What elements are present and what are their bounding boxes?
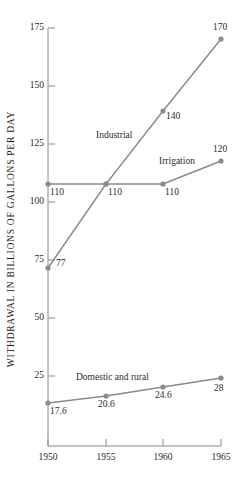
value-label-industrial-1965: 170 [213, 23, 227, 33]
y-tick-label-175: 175 [18, 23, 44, 33]
x-tick-label-1960: 1960 [143, 453, 183, 463]
data-point-domestic-1950 [45, 400, 50, 405]
value-label-irrigation-1950: 110 [50, 188, 64, 198]
y-tick-label-50: 50 [18, 313, 44, 323]
data-point-domestic-1955 [103, 393, 108, 398]
data-point-irrigation-1960 [160, 181, 165, 186]
x-tick-label-1950: 1950 [28, 453, 68, 463]
data-point-irrigation-1955 [103, 181, 108, 186]
series-line-irrigation [48, 161, 221, 184]
y-tick-label-75: 75 [18, 255, 44, 265]
data-point-irrigation-1950 [45, 181, 50, 186]
data-point-industrial-1960 [160, 108, 165, 113]
y-tick-label-100: 100 [18, 197, 44, 207]
plot-area [0, 0, 247, 478]
value-label-irrigation-1965: 120 [213, 145, 227, 155]
series-label-domestic: Domestic and rural [76, 373, 149, 383]
data-point-industrial-1965 [218, 36, 223, 41]
line-chart: WITHDRAWAL IN BILLIONS OF GALLONS PER DA… [0, 0, 247, 478]
value-label-industrial-1960: 140 [166, 112, 180, 122]
series-line-industrial [48, 39, 221, 268]
y-tick-label-150: 150 [18, 81, 44, 91]
series-label-industrial: Industrial [96, 131, 132, 141]
value-label-irrigation-1955: 110 [108, 188, 122, 198]
y-tick-label-25: 25 [18, 371, 44, 381]
data-point-domestic-1965 [218, 375, 223, 380]
series-label-irrigation: Irrigation [159, 157, 195, 167]
value-label-domestic-1965: 28 [214, 384, 224, 394]
data-point-domestic-1960 [160, 384, 165, 389]
data-point-irrigation-1965 [218, 158, 223, 163]
x-tick-label-1955: 1955 [86, 453, 126, 463]
value-label-industrial-1950: 77 [56, 259, 66, 269]
value-label-domestic-1950: 17.6 [50, 407, 67, 417]
x-tick-label-1965: 1965 [201, 453, 241, 463]
value-label-domestic-1960: 24.6 [155, 391, 172, 401]
value-label-domestic-1955: 20.6 [98, 400, 115, 410]
data-point-industrial-1950 [45, 265, 50, 270]
y-tick-label-125: 125 [18, 139, 44, 149]
value-label-irrigation-1960: 110 [165, 188, 179, 198]
